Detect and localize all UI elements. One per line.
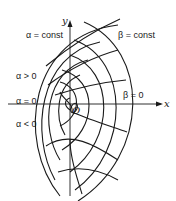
beta-const-label: β = const <box>118 30 155 40</box>
beta-zero-label: β = 0 <box>123 90 143 100</box>
y-axis-label: y <box>61 15 68 26</box>
x-axis-arrow-icon <box>156 102 163 107</box>
x-axis-label: x <box>164 98 170 109</box>
alpha-negative-label: α < 0 <box>16 119 36 129</box>
origin-label: O <box>72 105 80 116</box>
alpha-const-label: α = const <box>26 30 63 40</box>
y-axis-arrow-icon <box>68 20 73 27</box>
alpha-positive-label: α > 0 <box>16 71 36 81</box>
alpha-const-curves <box>35 22 132 201</box>
coordinate-grid-diagram: y x O α = const β = const α > 0 α = 0 α … <box>0 0 176 201</box>
alpha-zero-label: α = 0 <box>16 96 36 106</box>
